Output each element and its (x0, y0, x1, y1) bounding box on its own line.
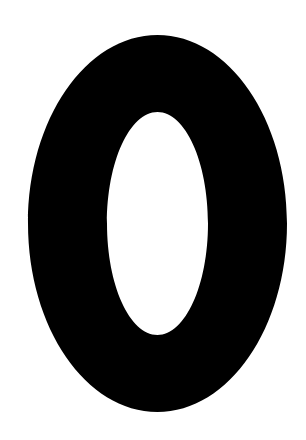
glyph-canvas: 0 (0, 0, 306, 440)
glyph-zero-svg: 0 (0, 0, 306, 440)
